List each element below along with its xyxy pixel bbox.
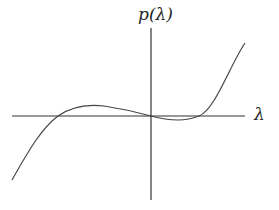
cubic-curve	[12, 43, 245, 180]
x-axis-label: λ	[254, 104, 265, 124]
y-axis-label: p(λ)	[138, 4, 173, 24]
polynomial-plot	[0, 0, 279, 210]
